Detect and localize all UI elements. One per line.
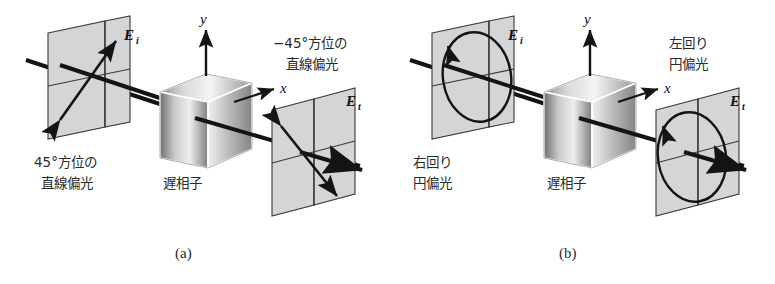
svg-text:円偏光: 円偏光 xyxy=(413,175,452,191)
svg-text:直線偏光: 直線偏光 xyxy=(41,175,93,191)
svg-text:x: x xyxy=(279,80,287,96)
svg-text:E: E xyxy=(729,93,740,109)
polarization-retarder-figure: E i y x xyxy=(0,0,775,284)
svg-text:i: i xyxy=(520,35,523,46)
output-plane-a xyxy=(272,88,355,216)
device-label-a: 遅相子 xyxy=(163,175,202,191)
device-label-b: 遅相子 xyxy=(547,175,586,191)
svg-text:x: x xyxy=(663,80,671,96)
svg-text:y: y xyxy=(198,11,207,27)
svg-text:右回り: 右回り xyxy=(413,154,452,170)
svg-text:円偏光: 円偏光 xyxy=(669,56,708,72)
svg-text:E: E xyxy=(123,27,134,43)
svg-text:i: i xyxy=(136,35,139,46)
svg-text:y: y xyxy=(582,11,591,27)
svg-text:−45°方位の: −45°方位の xyxy=(273,35,347,51)
svg-text:E: E xyxy=(507,27,518,43)
svg-text:直線偏光: 直線偏光 xyxy=(286,56,338,72)
caption-a: (a) xyxy=(175,245,192,262)
svg-text:左回り: 左回り xyxy=(669,35,708,51)
figure-canvas: E i y x xyxy=(0,0,775,284)
svg-text:45°方位の: 45°方位の xyxy=(34,154,97,170)
svg-text:E: E xyxy=(345,93,356,109)
caption-b: (b) xyxy=(559,245,577,262)
